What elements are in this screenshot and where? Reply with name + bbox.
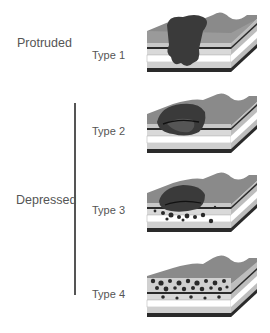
- group-label-protruded: Protruded: [17, 36, 72, 50]
- depressed-group-bracket: [74, 103, 76, 295]
- type-2-block-illustration: [143, 88, 261, 163]
- type-3-block-illustration: [143, 167, 261, 242]
- type-3-label: Type 3: [92, 204, 125, 216]
- type-1-label: Type 1: [92, 49, 125, 61]
- group-label-depressed: Depressed: [16, 193, 76, 207]
- type-2-label: Type 2: [92, 125, 125, 137]
- type-1-block-illustration: [143, 3, 261, 78]
- type-4-label: Type 4: [92, 288, 125, 300]
- type-4-block-illustration: [143, 250, 261, 325]
